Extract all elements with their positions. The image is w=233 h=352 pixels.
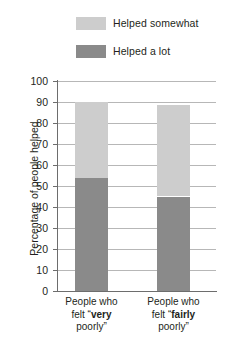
stacked-bar-chart: Helped somewhat Helped a lot Percentage … [0,0,233,352]
legend-item-helped-somewhat: Helped somewhat [76,16,226,36]
y-tick-label-80: 80 [18,118,48,129]
legend-label-helped-somewhat: Helped somewhat [113,16,199,30]
bar-1 [75,81,108,291]
y-tick-label-70: 70 [18,139,48,150]
legend-label-helped-a-lot: Helped a lot [113,44,170,58]
y-tick-label-0: 0 [18,286,48,297]
y-tick-0 [53,291,58,292]
x-axis-line [57,291,217,292]
bar-2 [157,81,190,291]
y-tick-label-30: 30 [18,223,48,234]
legend-swatch-helped-somewhat [76,17,106,30]
y-tick-label-50: 50 [18,181,48,192]
legend-item-helped-a-lot: Helped a lot [76,44,226,64]
y-tick-label-10: 10 [18,265,48,276]
category-label-1: People whofelt “verypoorly” [46,296,138,334]
y-tick-label-60: 60 [18,160,48,171]
bar-2-segment-helped-somewhat [157,105,190,196]
y-tick-label-100: 100 [18,76,48,87]
bar-1-segment-helped-a-lot [75,178,108,291]
y-tick-label-90: 90 [18,97,48,108]
y-tick-label-20: 20 [18,244,48,255]
bar-1-segment-helped-somewhat [75,102,108,178]
category-label-2: People whofelt “fairlypoorly” [128,296,220,334]
bar-2-segment-helped-a-lot [157,197,190,292]
plot-area [58,81,216,291]
legend-swatch-helped-a-lot [76,45,106,58]
y-tick-label-40: 40 [18,202,48,213]
chart-legend: Helped somewhat Helped a lot [76,16,226,72]
